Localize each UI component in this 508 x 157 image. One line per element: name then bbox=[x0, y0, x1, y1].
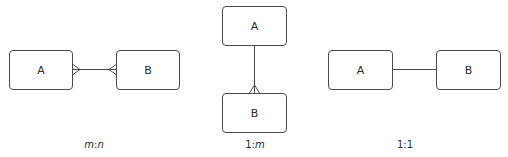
entity-a-m-n: A bbox=[9, 50, 73, 90]
entity-label: B bbox=[465, 64, 473, 77]
entity-label: B bbox=[144, 64, 152, 77]
caption-right: n bbox=[97, 139, 103, 150]
caption-right: 1 bbox=[407, 139, 413, 150]
entity-b-1-m: B bbox=[222, 93, 287, 133]
entity-label: A bbox=[251, 20, 259, 33]
caption-1-1: 1:1 bbox=[397, 139, 413, 150]
entity-b-m-n: B bbox=[116, 50, 180, 90]
caption-m-n: m:n bbox=[84, 139, 103, 150]
entity-label: A bbox=[37, 64, 45, 77]
entity-b-1-1: B bbox=[436, 50, 501, 90]
caption-1-m: 1:m bbox=[245, 139, 265, 150]
entity-a-1-m: A bbox=[222, 6, 287, 46]
caption-right: m bbox=[255, 139, 265, 150]
caption-left: m bbox=[84, 139, 94, 150]
relationship-1-m bbox=[250, 46, 260, 93]
entity-label: A bbox=[357, 64, 365, 77]
relationship-m-n bbox=[73, 65, 116, 75]
entity-a-1-1: A bbox=[328, 50, 393, 90]
entity-label: B bbox=[251, 107, 259, 120]
